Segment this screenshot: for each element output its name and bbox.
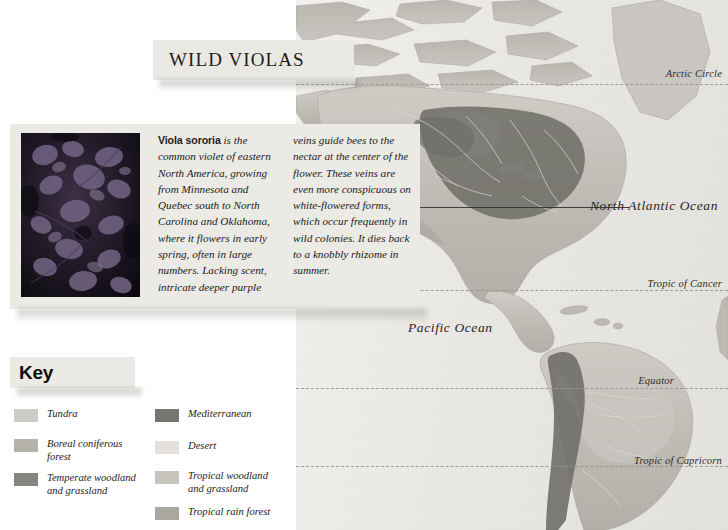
description-column-1: Viola sororia is the common violet of ea… bbox=[158, 132, 280, 295]
latitude-line-tropic-of-capricorn bbox=[296, 466, 728, 467]
photo-graphic bbox=[21, 133, 140, 297]
label-arctic-circle: Arctic Circle bbox=[666, 68, 722, 79]
legend-item-desert: Desert bbox=[155, 440, 216, 454]
label-tropic-of-capricorn: Tropic of Capricorn bbox=[634, 455, 722, 466]
map-legend: Tundra Boreal coniferous forest Temperat… bbox=[0, 408, 296, 530]
legend-swatch-temperate-woodland-and-grassland bbox=[14, 473, 38, 486]
info-card-shadow bbox=[17, 309, 427, 322]
key-banner: Key bbox=[10, 357, 135, 388]
callout-pointer-line bbox=[420, 207, 630, 208]
label-pacific-ocean: Pacific Ocean bbox=[408, 320, 493, 336]
legend-label-temperate-woodland-and-grassland: Temperate woodland and grassland bbox=[47, 472, 136, 497]
legend-swatch-tropical-rain-forest bbox=[155, 507, 179, 520]
label-north-atlantic-ocean: North Atlantic Ocean bbox=[590, 198, 718, 214]
page-title: WILD VIOLAS bbox=[169, 49, 305, 71]
info-card: Viola sororia is the common violet of ea… bbox=[10, 124, 420, 309]
label-tropic-of-cancer: Tropic of Cancer bbox=[647, 278, 722, 289]
legend-swatch-boreal-coniferous-forest bbox=[14, 439, 38, 452]
viola-sororia-photo bbox=[21, 133, 140, 297]
legend-label-tropical-rain-forest: Tropical rain forest bbox=[188, 506, 270, 519]
legend-item-temperate-woodland-and-grassland: Temperate woodland and grassland bbox=[14, 472, 136, 497]
legend-label-tropical-woodland-and-grassland: Tropical woodland and grassland bbox=[188, 470, 268, 495]
legend-swatch-tropical-woodland-and-grassland bbox=[155, 471, 179, 484]
legend-item-mediterranean: Mediterranean bbox=[155, 408, 252, 422]
title-banner: WILD VIOLAS bbox=[153, 40, 354, 80]
species-name: Viola sororia bbox=[158, 134, 221, 146]
legend-label-mediterranean: Mediterranean bbox=[188, 408, 252, 421]
legend-swatch-desert bbox=[155, 441, 179, 454]
description-column-2: veins guide bees to the nectar at the ce… bbox=[293, 132, 415, 279]
label-equator: Equator bbox=[638, 375, 674, 386]
wild-violas-page: Arctic Circle Tropic of Cancer Equator T… bbox=[0, 0, 728, 530]
legend-label-desert: Desert bbox=[188, 440, 216, 453]
title-banner-shadow bbox=[159, 80, 360, 91]
legend-item-tropical-woodland-and-grassland: Tropical woodland and grassland bbox=[155, 470, 268, 495]
key-heading: Key bbox=[19, 362, 53, 384]
legend-swatch-tundra bbox=[14, 409, 38, 422]
legend-item-tropical-rain-forest: Tropical rain forest bbox=[155, 506, 270, 520]
latitude-line-equator bbox=[296, 388, 728, 389]
legend-label-boreal-coniferous-forest: Boreal coniferous forest bbox=[47, 438, 122, 463]
key-banner-shadow bbox=[17, 388, 142, 399]
latitude-line-arctic-circle bbox=[296, 84, 728, 85]
legend-label-tundra: Tundra bbox=[47, 408, 78, 421]
legend-swatch-mediterranean bbox=[155, 409, 179, 422]
legend-item-tundra: Tundra bbox=[14, 408, 78, 422]
description-column-1-text: is the common violet of eastern North Am… bbox=[158, 134, 271, 293]
legend-item-boreal-coniferous-forest: Boreal coniferous forest bbox=[14, 438, 122, 463]
